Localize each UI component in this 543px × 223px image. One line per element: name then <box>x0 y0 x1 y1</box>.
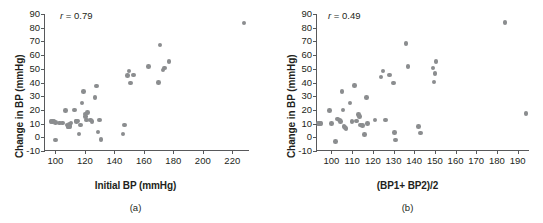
x-tick-b-170 <box>476 150 477 154</box>
data-point <box>77 132 82 137</box>
panel-b: -100102030405060708090100110120130140150… <box>272 0 543 223</box>
y-tick-label-a-70: 70 <box>29 37 40 47</box>
data-point <box>158 43 163 48</box>
data-point <box>383 118 388 123</box>
y-tick-b-40 <box>313 83 317 84</box>
data-point <box>364 95 369 100</box>
data-point <box>121 132 126 137</box>
x-tick-b-180 <box>497 150 498 154</box>
data-point <box>352 83 357 88</box>
data-point <box>387 73 392 78</box>
data-point <box>242 21 247 26</box>
data-point <box>72 108 77 113</box>
y-axis-title-b: Change in BP (mmHg) <box>286 55 297 158</box>
y-tick-b-50 <box>313 69 317 70</box>
data-point <box>362 132 367 137</box>
x-tick-b-190 <box>518 150 519 154</box>
x-tick-label-a-200: 200 <box>195 156 211 166</box>
y-tick-a-70 <box>41 41 45 42</box>
data-point <box>85 110 90 115</box>
x-tick-label-a-180: 180 <box>165 156 181 166</box>
y-tick-b-0 <box>313 137 317 138</box>
data-point <box>93 95 98 100</box>
data-point <box>404 41 409 46</box>
x-tick-label-b-170: 170 <box>468 156 484 166</box>
x-tick-a-200 <box>203 150 204 154</box>
x-axis-title-b: (BP1+ BP2)/2 <box>272 180 543 191</box>
x-tick-b-160 <box>456 150 457 154</box>
data-point <box>63 108 68 113</box>
y-tick-b-80 <box>313 28 317 29</box>
data-point <box>431 66 436 71</box>
y-tick-label-a-20: 20 <box>29 105 40 115</box>
y-tick-a--10 <box>41 151 45 152</box>
r-value-b: = 0.49 <box>334 10 361 21</box>
data-point <box>78 123 83 128</box>
x-tick-label-b-140: 140 <box>406 156 422 166</box>
x-tick-label-b-120: 120 <box>365 156 381 166</box>
data-point <box>329 121 334 126</box>
r-value-a: = 0.79 <box>66 10 93 21</box>
y-tick-a-20 <box>41 110 45 111</box>
x-tick-label-a-160: 160 <box>136 156 152 166</box>
data-point <box>96 130 101 135</box>
data-point <box>432 80 437 85</box>
data-point <box>341 108 346 113</box>
data-point <box>434 59 439 64</box>
data-points-a <box>45 14 249 150</box>
x-tick-label-b-130: 130 <box>386 156 402 166</box>
data-point <box>333 139 338 144</box>
y-tick-label-a-50: 50 <box>29 64 40 74</box>
correlation-annotation-a: r = 0.79 <box>60 10 93 21</box>
plot-area-a: -100102030405060708090100120140160180200… <box>44 14 249 151</box>
data-point <box>81 89 86 94</box>
y-tick-a-10 <box>41 124 45 125</box>
x-tick-a-180 <box>173 150 174 154</box>
panel-a: -100102030405060708090100120140160180200… <box>0 0 271 223</box>
x-tick-label-b-100: 100 <box>324 156 340 166</box>
data-point <box>344 126 349 131</box>
y-tick-label-b-50: 50 <box>301 64 312 74</box>
x-tick-label-a-100: 100 <box>47 156 63 166</box>
y-tick-b-30 <box>313 96 317 97</box>
data-point <box>319 121 324 126</box>
x-tick-label-b-150: 150 <box>427 156 443 166</box>
plot-area-b: -100102030405060708090100110120130140150… <box>316 14 529 151</box>
y-tick-label-b--10: -10 <box>298 146 312 156</box>
data-point <box>69 121 74 126</box>
data-point <box>167 59 172 64</box>
y-tick-label-b-40: 40 <box>301 78 312 88</box>
y-tick-label-b-10: 10 <box>301 119 312 129</box>
y-tick-label-b-90: 90 <box>301 9 312 19</box>
data-point <box>416 124 421 129</box>
y-tick-label-a-60: 60 <box>29 50 40 60</box>
panel-caption-a: (a) <box>0 202 271 213</box>
x-tick-a-140 <box>114 150 115 154</box>
x-tick-label-b-110: 110 <box>345 156 360 166</box>
data-point <box>125 73 130 78</box>
y-tick-label-a--10: -10 <box>26 146 40 156</box>
r-symbol-b: r <box>328 10 331 21</box>
data-point <box>433 71 438 76</box>
data-point <box>392 130 397 135</box>
y-tick-label-a-0: 0 <box>35 133 40 143</box>
y-tick-b--10 <box>313 151 317 152</box>
correlation-annotation-b: r = 0.49 <box>328 10 361 21</box>
data-point <box>97 118 102 123</box>
data-point <box>406 64 411 69</box>
x-axis-title-a: Initial BP (mmHg) <box>0 180 271 191</box>
data-point <box>90 119 95 124</box>
y-tick-a-90 <box>41 14 45 15</box>
data-point <box>360 123 365 128</box>
data-point <box>503 20 508 25</box>
x-tick-b-150 <box>435 150 436 154</box>
y-tick-label-a-30: 30 <box>29 91 40 101</box>
data-point <box>348 101 353 106</box>
data-point <box>162 66 167 71</box>
data-point <box>131 73 136 78</box>
x-tick-label-b-190: 190 <box>510 156 526 166</box>
data-point <box>327 108 332 113</box>
x-tick-a-100 <box>55 150 56 154</box>
data-point <box>418 131 423 136</box>
y-tick-a-50 <box>41 69 45 70</box>
